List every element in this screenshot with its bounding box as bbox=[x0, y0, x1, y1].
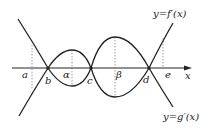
point-label-d: d bbox=[143, 75, 149, 85]
curve-f-prime bbox=[18, 19, 173, 68]
point-label-a: a bbox=[22, 70, 28, 80]
point-label-c: c bbox=[87, 76, 93, 86]
point-b-dot bbox=[46, 66, 49, 69]
point-label-alpha: α bbox=[63, 70, 70, 80]
point-c-dot bbox=[89, 66, 92, 69]
point-label-beta: β bbox=[116, 70, 122, 80]
curve-label-g: y=g′(x) bbox=[163, 112, 199, 122]
axis-label-x: x bbox=[185, 71, 191, 81]
point-label-b: b bbox=[45, 76, 51, 86]
point-d-dot bbox=[147, 66, 150, 69]
curve-g-prime bbox=[19, 68, 173, 116]
curve-label-f: y=f′(x) bbox=[153, 9, 186, 19]
function-graph: y=f′(x) y=g′(x) x a b α c β d e bbox=[0, 0, 214, 133]
point-label-e: e bbox=[165, 70, 171, 80]
